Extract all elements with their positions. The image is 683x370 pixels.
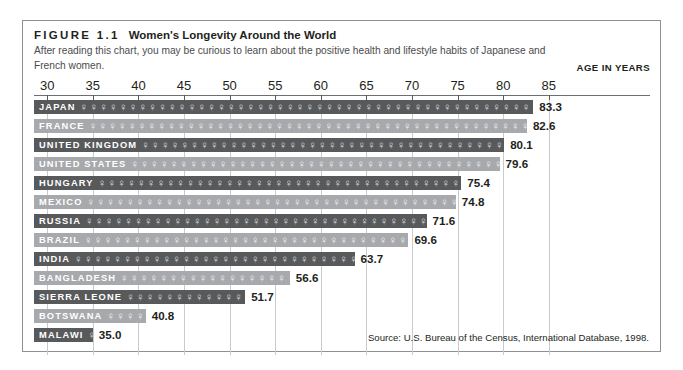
chart-plot-area: 303540455055606570758085JAPAN♀♀♀♀♀♀♀♀♀♀♀… [23,21,660,351]
axis-tick-label: 55 [268,78,282,93]
chart-bar-row: UNITED STATES♀♀♀♀♀♀♀♀♀♀♀♀♀♀♀♀♀♀♀♀♀♀♀♀♀♀♀… [34,157,660,171]
chart-bar: FRANCE♀♀♀♀♀♀♀♀♀♀♀♀♀♀♀♀♀♀♀♀♀♀♀♀♀♀♀♀♀♀♀♀♀♀… [34,119,527,133]
chart-bar-row: BOTSWANA♀♀♀♀♀♀♀♀♀♀♀♀♀♀♀♀♀♀♀♀♀♀♀♀♀♀♀♀♀♀♀♀… [34,309,660,323]
axis-tick-label: 30 [40,78,54,93]
venus-female-symbol-fill: ♀♀♀♀♀♀♀♀♀♀♀♀♀♀♀♀♀♀♀♀♀♀♀♀♀♀♀♀♀♀♀♀♀♀♀♀♀♀♀♀… [130,157,499,171]
axis-tick-label: 75 [450,78,464,93]
axis-tick-label: 70 [405,78,419,93]
bar-country-label: JAPAN [34,100,80,114]
axis-tick-label: 40 [131,78,145,93]
chart-bar: JAPAN♀♀♀♀♀♀♀♀♀♀♀♀♀♀♀♀♀♀♀♀♀♀♀♀♀♀♀♀♀♀♀♀♀♀♀… [34,100,533,114]
axis-tick-label: 50 [222,78,236,93]
bar-country-label: BANGLADESH [34,271,120,285]
bar-country-label: UNITED KINGDOM [34,138,141,152]
venus-female-symbol-fill: ♀♀♀♀♀♀♀♀♀♀♀♀♀♀♀♀♀♀♀♀♀♀♀♀♀♀♀♀♀♀♀♀♀♀♀♀♀♀♀♀… [120,271,290,285]
bar-country-label: SIERRA LEONE [34,290,126,304]
axis-tick-label: 65 [359,78,373,93]
bar-value-label: 80.1 [510,138,533,152]
bar-value-label: 74.8 [462,195,485,209]
bar-country-label: HUNGARY [34,176,98,190]
chart-bar-row: UNITED KINGDOM♀♀♀♀♀♀♀♀♀♀♀♀♀♀♀♀♀♀♀♀♀♀♀♀♀♀… [34,138,660,152]
venus-female-symbol-fill: ♀♀♀♀♀♀♀♀♀♀♀♀♀♀♀♀♀♀♀♀♀♀♀♀♀♀♀♀♀♀♀♀♀♀♀♀♀♀♀♀… [74,252,355,266]
chart-bar: MALAWI♀♀♀♀♀♀♀♀♀♀♀♀♀♀♀♀♀♀♀♀♀♀♀♀♀♀♀♀♀♀♀♀♀♀… [34,328,93,342]
bar-value-label: 83.3 [539,100,562,114]
venus-female-symbol-fill: ♀♀♀♀♀♀♀♀♀♀♀♀♀♀♀♀♀♀♀♀♀♀♀♀♀♀♀♀♀♀♀♀♀♀♀♀♀♀♀♀… [126,290,245,304]
bar-value-label: 75.4 [467,176,490,190]
axis-tick-label: 60 [314,78,328,93]
bar-value-label: 56.6 [296,271,319,285]
venus-female-symbol-fill: ♀♀♀♀♀♀♀♀♀♀♀♀♀♀♀♀♀♀♀♀♀♀♀♀♀♀♀♀♀♀♀♀♀♀♀♀♀♀♀♀… [80,100,534,114]
chart-bar-row: BRAZIL♀♀♀♀♀♀♀♀♀♀♀♀♀♀♀♀♀♀♀♀♀♀♀♀♀♀♀♀♀♀♀♀♀♀… [34,233,660,247]
bar-value-label: 79.6 [506,157,529,171]
axis-tick-label: 45 [177,78,191,93]
source-note: Source: U.S. Bureau of the Census, Inter… [368,332,649,343]
venus-female-symbol-fill: ♀♀♀♀♀♀♀♀♀♀♀♀♀♀♀♀♀♀♀♀♀♀♀♀♀♀♀♀♀♀♀♀♀♀♀♀♀♀♀♀… [87,195,456,209]
chart-bar: INDIA♀♀♀♀♀♀♀♀♀♀♀♀♀♀♀♀♀♀♀♀♀♀♀♀♀♀♀♀♀♀♀♀♀♀♀… [34,252,355,266]
bar-value-label: 71.6 [433,214,456,228]
axis-baseline [34,95,650,96]
bar-country-label: MEXICO [34,195,87,209]
bar-value-label: 69.6 [414,233,437,247]
venus-female-symbol-fill: ♀♀♀♀♀♀♀♀♀♀♀♀♀♀♀♀♀♀♀♀♀♀♀♀♀♀♀♀♀♀♀♀♀♀♀♀♀♀♀♀… [85,214,427,228]
chart-bar: BOTSWANA♀♀♀♀♀♀♀♀♀♀♀♀♀♀♀♀♀♀♀♀♀♀♀♀♀♀♀♀♀♀♀♀… [34,309,146,323]
chart-bar-row: INDIA♀♀♀♀♀♀♀♀♀♀♀♀♀♀♀♀♀♀♀♀♀♀♀♀♀♀♀♀♀♀♀♀♀♀♀… [34,252,660,266]
chart-bar-row: BANGLADESH♀♀♀♀♀♀♀♀♀♀♀♀♀♀♀♀♀♀♀♀♀♀♀♀♀♀♀♀♀♀… [34,271,660,285]
axis-tick-label: 85 [542,78,556,93]
bar-country-label: BOTSWANA [34,309,106,323]
chart-bar-row: HUNGARY♀♀♀♀♀♀♀♀♀♀♀♀♀♀♀♀♀♀♀♀♀♀♀♀♀♀♀♀♀♀♀♀♀… [34,176,660,190]
bar-country-label: FRANCE [34,119,89,133]
chart-bar: HUNGARY♀♀♀♀♀♀♀♀♀♀♀♀♀♀♀♀♀♀♀♀♀♀♀♀♀♀♀♀♀♀♀♀♀… [34,176,461,190]
chart-bar-row: RUSSIA♀♀♀♀♀♀♀♀♀♀♀♀♀♀♀♀♀♀♀♀♀♀♀♀♀♀♀♀♀♀♀♀♀♀… [34,214,660,228]
bar-value-label: 63.7 [361,252,384,266]
venus-female-symbol-fill: ♀♀♀♀♀♀♀♀♀♀♀♀♀♀♀♀♀♀♀♀♀♀♀♀♀♀♀♀♀♀♀♀♀♀♀♀♀♀♀♀… [84,233,408,247]
chart-bar-row: SIERRA LEONE♀♀♀♀♀♀♀♀♀♀♀♀♀♀♀♀♀♀♀♀♀♀♀♀♀♀♀♀… [34,290,660,304]
venus-female-symbol-fill: ♀♀♀♀♀♀♀♀♀♀♀♀♀♀♀♀♀♀♀♀♀♀♀♀♀♀♀♀♀♀♀♀♀♀♀♀♀♀♀♀… [88,328,93,342]
bar-country-label: RUSSIA [34,214,85,228]
bar-value-label: 82.6 [533,119,556,133]
figure-box: FIGURE 1.1Women's Longevity Around the W… [22,20,661,352]
axis-tick-label: 80 [496,78,510,93]
chart-bar: UNITED KINGDOM♀♀♀♀♀♀♀♀♀♀♀♀♀♀♀♀♀♀♀♀♀♀♀♀♀♀… [34,138,504,152]
chart-bar: UNITED STATES♀♀♀♀♀♀♀♀♀♀♀♀♀♀♀♀♀♀♀♀♀♀♀♀♀♀♀… [34,157,500,171]
chart-bar: MEXICO♀♀♀♀♀♀♀♀♀♀♀♀♀♀♀♀♀♀♀♀♀♀♀♀♀♀♀♀♀♀♀♀♀♀… [34,195,456,209]
bar-country-label: BRAZIL [34,233,84,247]
bar-country-label: UNITED STATES [34,157,130,171]
chart-bar: SIERRA LEONE♀♀♀♀♀♀♀♀♀♀♀♀♀♀♀♀♀♀♀♀♀♀♀♀♀♀♀♀… [34,290,245,304]
venus-female-symbol-fill: ♀♀♀♀♀♀♀♀♀♀♀♀♀♀♀♀♀♀♀♀♀♀♀♀♀♀♀♀♀♀♀♀♀♀♀♀♀♀♀♀… [89,119,527,133]
bar-value-label: 35.0 [99,328,122,342]
venus-female-symbol-fill: ♀♀♀♀♀♀♀♀♀♀♀♀♀♀♀♀♀♀♀♀♀♀♀♀♀♀♀♀♀♀♀♀♀♀♀♀♀♀♀♀… [98,176,462,190]
venus-female-symbol-fill: ♀♀♀♀♀♀♀♀♀♀♀♀♀♀♀♀♀♀♀♀♀♀♀♀♀♀♀♀♀♀♀♀♀♀♀♀♀♀♀♀… [141,138,504,152]
chart-bar-row: JAPAN♀♀♀♀♀♀♀♀♀♀♀♀♀♀♀♀♀♀♀♀♀♀♀♀♀♀♀♀♀♀♀♀♀♀♀… [34,100,660,114]
chart-bar-row: FRANCE♀♀♀♀♀♀♀♀♀♀♀♀♀♀♀♀♀♀♀♀♀♀♀♀♀♀♀♀♀♀♀♀♀♀… [34,119,660,133]
chart-bar-row: MEXICO♀♀♀♀♀♀♀♀♀♀♀♀♀♀♀♀♀♀♀♀♀♀♀♀♀♀♀♀♀♀♀♀♀♀… [34,195,660,209]
bar-value-label: 40.8 [152,309,175,323]
axis-tick-label: 35 [86,78,100,93]
chart-bar: BRAZIL♀♀♀♀♀♀♀♀♀♀♀♀♀♀♀♀♀♀♀♀♀♀♀♀♀♀♀♀♀♀♀♀♀♀… [34,233,408,247]
bar-country-label: MALAWI [34,328,88,342]
bar-value-label: 51.7 [251,290,274,304]
bar-country-label: INDIA [34,252,74,266]
chart-bar: RUSSIA♀♀♀♀♀♀♀♀♀♀♀♀♀♀♀♀♀♀♀♀♀♀♀♀♀♀♀♀♀♀♀♀♀♀… [34,214,427,228]
chart-bar: BANGLADESH♀♀♀♀♀♀♀♀♀♀♀♀♀♀♀♀♀♀♀♀♀♀♀♀♀♀♀♀♀♀… [34,271,290,285]
venus-female-symbol-fill: ♀♀♀♀♀♀♀♀♀♀♀♀♀♀♀♀♀♀♀♀♀♀♀♀♀♀♀♀♀♀♀♀♀♀♀♀♀♀♀♀… [106,309,145,323]
